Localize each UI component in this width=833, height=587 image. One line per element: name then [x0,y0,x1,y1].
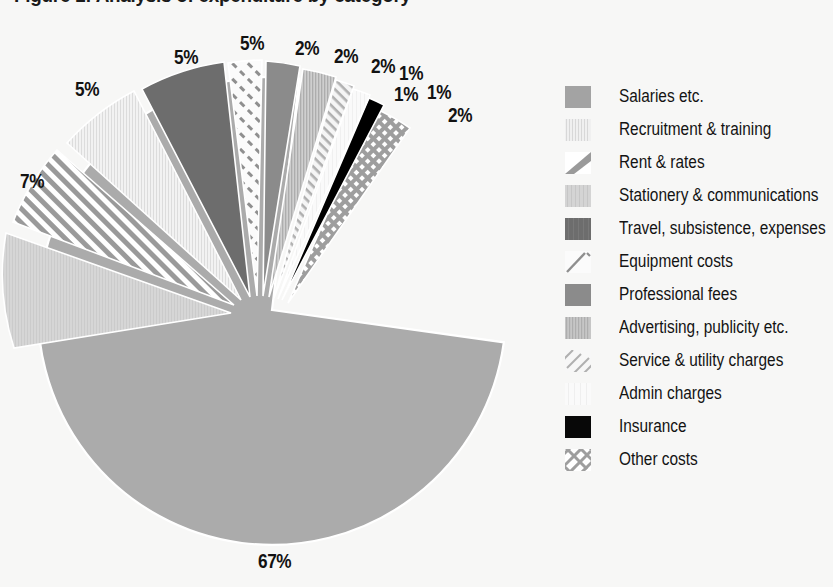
pct-label: 1% [399,62,423,85]
legend-item-professional-fees[interactable]: Professional fees [548,278,833,311]
legend-label: Professional fees [619,286,737,304]
pct-label: 67% [258,550,291,573]
legend-label: Stationery & communications [619,187,818,205]
exploded-slices [2,60,410,348]
legend-swatch-insurance-icon [565,416,591,438]
legend-swatch-rent-rates-icon [565,152,591,174]
pie-chart-plot-area: 5% 5% 5% 2% 2% 2% 1% 1% 1% 2% 7% 67% [0,0,545,587]
legend-item-travel-subsistence-expenses[interactable]: Travel, subsistence, expenses [548,212,833,245]
legend-item-insurance[interactable]: Insurance [548,410,833,443]
legend-label: Insurance [619,418,687,436]
legend-swatch-other-costs-icon [565,449,591,471]
chart-page: Figure 1: Analysis of expenditure by cat… [0,0,833,587]
legend-item-recruitment-training[interactable]: Recruitment & training [548,113,833,146]
legend-item-admin-charges[interactable]: Admin charges [548,377,833,410]
legend-label: Salaries etc. [619,88,704,106]
legend-swatch-stationery-icon [565,185,591,207]
legend-label: Advertising, publicity etc. [619,319,788,337]
pct-label: 2% [295,37,319,60]
legend-swatch-equipment-icon [565,251,591,273]
legend-item-service-utility-charges[interactable]: Service & utility charges [548,344,833,377]
legend-item-rent-rates[interactable]: Rent & rates [548,146,833,179]
legend-label: Recruitment & training [619,121,771,139]
legend-label: Equipment costs [619,253,733,271]
legend-label: Service & utility charges [619,352,783,370]
legend-item-salaries[interactable]: Salaries etc. [548,80,833,113]
legend-label: Other costs [619,451,698,469]
legend-swatch-service-utility-icon [565,350,591,372]
legend-label: Travel, subsistence, expenses [619,220,826,238]
legend-item-advertising-publicity[interactable]: Advertising, publicity etc. [548,311,833,344]
legend-label: Admin charges [619,385,722,403]
pct-label: 2% [371,55,395,78]
pct-label: 7% [20,170,44,193]
legend-item-equipment-costs[interactable]: Equipment costs [548,245,833,278]
legend-swatch-travel-icon [565,218,591,240]
pct-label: 1% [394,83,418,106]
pct-label: 1% [427,81,451,104]
legend-swatch-admin-charges-icon [565,383,591,405]
legend-swatch-salaries-icon [565,86,591,108]
legend-item-stationery-communications[interactable]: Stationery & communications [548,179,833,212]
legend-swatch-professional-fees-icon [565,284,591,306]
pct-label: 5% [75,78,99,101]
pct-label: 5% [174,46,198,69]
legend-label: Rent & rates [619,154,705,172]
pct-label: 2% [334,45,358,68]
chart-legend: Salaries etc. Recruitment & tr [548,80,833,476]
pct-label: 2% [448,104,472,127]
legend-swatch-recruitment-icon [565,119,591,141]
legend-swatch-advertising-icon [565,317,591,339]
pct-label: 5% [240,32,264,55]
legend-item-other-costs[interactable]: Other costs [548,443,833,476]
